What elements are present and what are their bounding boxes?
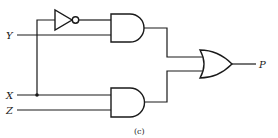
- inverter-bubble: [72, 17, 78, 23]
- or-gate: [200, 50, 232, 78]
- input-label-z: Z: [5, 105, 14, 116]
- junction-dot-x: [35, 93, 39, 97]
- wire-and2-to-or: [144, 71, 204, 102]
- wire-and1-to-or: [144, 28, 204, 57]
- input-label-x: X: [5, 90, 14, 101]
- not-gate: [55, 10, 79, 30]
- output-label-p: P: [258, 59, 266, 70]
- and-gate-1: [111, 14, 144, 42]
- and-gate-2: [111, 88, 145, 117]
- logic-circuit-diagram: Y X Z P (c): [0, 0, 278, 138]
- figure-caption: (c): [134, 127, 145, 136]
- input-label-y: Y: [6, 30, 14, 41]
- wire-x-to-inverter: [37, 20, 55, 95]
